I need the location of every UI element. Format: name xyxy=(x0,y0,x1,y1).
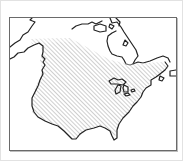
newfoundland xyxy=(170,70,176,76)
arctic-island-1 xyxy=(94,24,106,32)
range-area xyxy=(30,38,168,140)
hudson-island xyxy=(123,40,128,46)
nova-scotia-island xyxy=(159,76,164,81)
yukon-coast xyxy=(10,43,39,59)
range-map: Range xyxy=(9,17,177,151)
map-svg xyxy=(10,18,176,150)
page-frame: Range xyxy=(0,0,183,161)
arctic-island-2 xyxy=(109,24,114,29)
